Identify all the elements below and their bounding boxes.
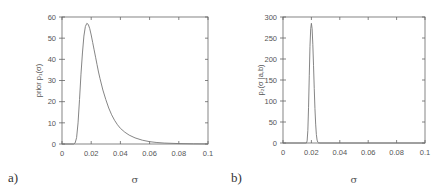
x-tick-label: 0.08 bbox=[171, 149, 186, 158]
y-tick-label: 300 bbox=[264, 13, 277, 22]
y-tick-label: 30 bbox=[48, 76, 56, 85]
y-tick-label: 10 bbox=[48, 119, 56, 128]
y-tick-label: 200 bbox=[264, 55, 277, 64]
y-tick-label: 150 bbox=[264, 76, 277, 85]
series-line-prior bbox=[62, 23, 208, 144]
x-tick-label: 0.04 bbox=[113, 149, 128, 158]
y-axis-label: prior p₁(σ) bbox=[34, 63, 43, 97]
x-tick-label: 0.1 bbox=[420, 148, 430, 157]
panel-label: b) bbox=[231, 170, 242, 185]
panel-label: a) bbox=[8, 170, 18, 185]
chart-panel-b: 00.020.040.060.080.1050100150200250300p₂… bbox=[231, 13, 430, 185]
x-tick-label: 0.02 bbox=[84, 149, 99, 158]
y-tick-label: 60 bbox=[48, 13, 56, 22]
x-tick-label: 0.04 bbox=[332, 148, 347, 157]
y-axis-label: p₂(σ |a,b) bbox=[256, 64, 265, 96]
x-axis-label: σ bbox=[351, 174, 358, 185]
y-tick-label: 20 bbox=[48, 97, 56, 106]
x-tick-label: 0.1 bbox=[203, 149, 213, 158]
y-tick-label: 50 bbox=[48, 34, 56, 43]
y-tick-label: 40 bbox=[48, 55, 56, 64]
y-tick-label: 0 bbox=[52, 140, 56, 149]
y-tick-label: 50 bbox=[269, 118, 277, 127]
x-tick-label: 0 bbox=[281, 148, 285, 157]
x-axis-label: σ bbox=[132, 174, 139, 185]
x-tick-label: 0.08 bbox=[389, 148, 404, 157]
x-tick-label: 0.06 bbox=[361, 148, 376, 157]
y-tick-label: 0 bbox=[273, 139, 277, 148]
x-tick-label: 0.06 bbox=[142, 149, 157, 158]
y-tick-label: 250 bbox=[264, 34, 277, 43]
plot-frame bbox=[283, 17, 425, 143]
y-tick-label: 100 bbox=[264, 97, 277, 106]
chart-panel-a: 00.020.040.060.080.10102030405060prior p… bbox=[8, 13, 213, 185]
x-tick-label: 0 bbox=[60, 149, 64, 158]
x-tick-label: 0.02 bbox=[304, 148, 319, 157]
figure: 00.020.040.060.080.10102030405060prior p… bbox=[0, 0, 447, 192]
series-line-posterior bbox=[283, 23, 425, 143]
